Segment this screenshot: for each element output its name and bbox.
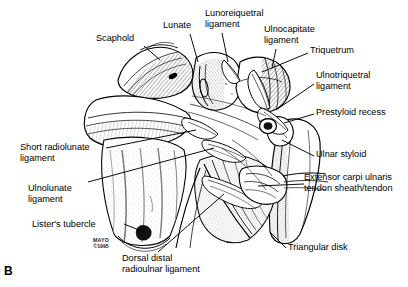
panel-letter: B (4, 264, 13, 278)
label-ulnar-styloid: Ulnar styloid (316, 149, 366, 160)
radius-bone (84, 96, 194, 252)
leader-lunate (190, 34, 198, 62)
label-scaphoid: Scaphold (96, 33, 134, 44)
label-prestyloid-recess: Prestyloid recess (316, 107, 386, 118)
scaphoid-bone (118, 42, 196, 102)
label-listers-tubercle: Lister's tubercle (32, 219, 96, 230)
prestyloid-recess-structure (259, 119, 277, 134)
label-ulnolunate-ligament: Ulnolunate ligament (28, 183, 72, 204)
label-extensor-carpi-ulnaris: Extensor carpi ulnaris tendon sheath/ten… (304, 172, 393, 193)
listers-tubercle-structure (136, 225, 151, 240)
label-ulnotriquetral-ligament: Ulnotriquetral ligament (316, 70, 370, 91)
label-triquetrum: Triquetrum (310, 45, 354, 56)
anatomical-figure-panel: Scaphold Lunate Lunoreiquetral ligament … (0, 0, 408, 287)
label-short-radiolunate-ligament: Short radiolunate ligament (20, 142, 90, 163)
label-ulnocapitate-ligament: Ulnocapitate ligament (264, 24, 315, 45)
label-triangular-disk: Triangular disk (288, 242, 348, 253)
mayo-credit-mark: MAYO ©1995 (88, 237, 114, 249)
label-lunate: Lunate (163, 20, 191, 31)
mayo-copyright-text: ©1995 (88, 243, 114, 249)
short-radiolunate-ligament-structure (182, 118, 218, 139)
label-lunotriquetral-ligament: Lunoreiquetral ligament (205, 8, 263, 29)
label-dorsal-distal-radioulnar-ligament: Dorsal distal radioulnar ligament (122, 253, 200, 274)
